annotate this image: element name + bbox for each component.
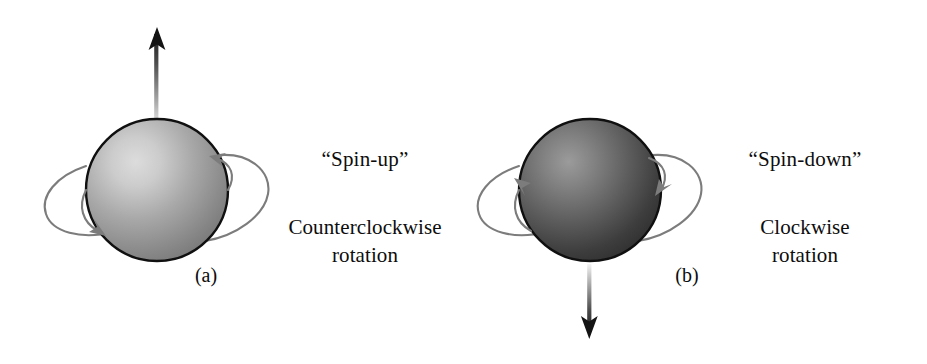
spin-states-figure: “Spin-up” Counterclockwise rotation (a) … (0, 0, 927, 364)
rotation-label-b-line2: rotation (700, 242, 910, 270)
rotation-label-a-line1: Counterclockwise (288, 215, 441, 239)
spin-down-label: “Spin-down” (700, 146, 910, 174)
clockwise-rotation-label: Clockwise rotation (700, 214, 910, 269)
spin-up-label: “Spin-up” (265, 146, 465, 174)
panel-letter-a: (a) (186, 264, 226, 287)
panel-a: “Spin-up” Counterclockwise rotation (a) (0, 0, 464, 364)
rotation-label-b-line1: Clockwise (760, 215, 850, 239)
rotation-label-a-line2: rotation (255, 242, 475, 270)
counterclockwise-rotation-label: Counterclockwise rotation (255, 214, 475, 269)
panel-b: “Spin-down” Clockwise rotation (b) (464, 0, 927, 364)
panel-letter-b: (b) (667, 264, 707, 287)
